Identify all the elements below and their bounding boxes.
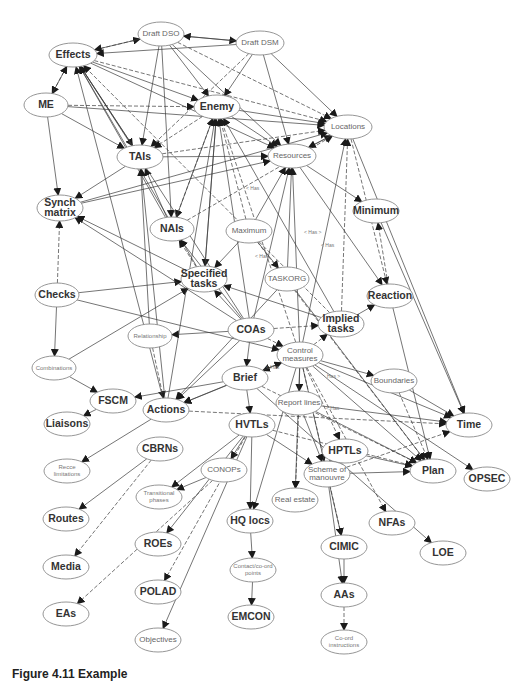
edge-contact-points-to-emcon xyxy=(252,582,253,605)
edge-label: < Has xyxy=(326,405,340,411)
node-label: Report lines xyxy=(278,398,321,407)
edge-tais-to-resources xyxy=(163,156,268,157)
node-label: measures xyxy=(282,354,317,363)
node-label: Resources xyxy=(273,151,311,160)
node-label: HVTLs xyxy=(235,418,268,430)
node-locations: Locations xyxy=(324,115,372,139)
node-minimum: Minimum xyxy=(353,199,399,223)
edge-coas-to-implied-tasks xyxy=(274,326,318,329)
node-loe: LOE xyxy=(420,541,466,565)
node-hvtls: HVTLs xyxy=(229,413,275,437)
edge-control-measures-to-implied-tasks xyxy=(314,334,327,344)
edge-enemy-to-tais xyxy=(154,116,202,147)
node-scheme-of-manouvre: Scheme ofmanouvre xyxy=(304,461,350,487)
edge-implied-tasks-to-specified-tasks xyxy=(224,286,321,318)
node-synch-matrix: Synchmatrix xyxy=(37,195,83,221)
edge-hq-locs-to-contact-points xyxy=(251,533,253,558)
node-label: Routes xyxy=(48,512,84,524)
edge-relationship-to-actions xyxy=(153,348,164,398)
nodes-layer: Draft DSODraft DSMEffectsMEEnemyLocation… xyxy=(24,22,510,654)
edge-report-lines-to-time xyxy=(321,406,446,422)
edge-taskorg-to-resources xyxy=(288,168,292,267)
edge-scheme-of-manouvre-to-plan xyxy=(350,472,410,474)
edge-maximum-to-enemy xyxy=(220,119,246,219)
node-label: OPSEC xyxy=(469,472,506,484)
edge-checks-to-synch-matrix xyxy=(57,221,59,283)
node-draft-dsm: Draft DSM xyxy=(236,31,284,55)
node-boundaries: Boundaries xyxy=(371,369,417,393)
node-label: Boundaries xyxy=(374,376,414,385)
node-label: EMCON xyxy=(231,610,270,622)
edge-brief-to-fscm xyxy=(135,382,223,397)
node-label: phases xyxy=(149,497,168,503)
node-label: ME xyxy=(38,98,54,110)
node-label: Checks xyxy=(38,288,76,300)
node-brief: Brief xyxy=(222,366,268,390)
edge-brief-to-actions xyxy=(184,385,227,402)
node-label: Transitional xyxy=(144,490,175,496)
node-polad: POLAD xyxy=(135,580,181,604)
node-aas: AAs xyxy=(321,583,367,607)
edge-resources-to-minimum xyxy=(307,166,362,202)
edge-label: < Has xyxy=(321,242,335,248)
node-label: CIMIC xyxy=(329,540,359,552)
edge-tais-to-synch-matrix xyxy=(75,166,125,198)
node-liaisons: Liaisons xyxy=(44,412,90,436)
node-label: COAs xyxy=(236,323,265,335)
edge-cbrns-to-routes xyxy=(79,459,147,509)
node-nfas: NFAs xyxy=(369,511,415,535)
node-label: Draft DSO xyxy=(143,29,180,38)
node-enemy: Enemy xyxy=(194,95,240,119)
edge-coas-to-control-measures xyxy=(267,338,283,346)
node-label: Minimum xyxy=(353,204,399,216)
node-checks: Checks xyxy=(35,283,79,307)
node-label: Maximum xyxy=(232,226,267,235)
edge-maximum-to-specified-tasks xyxy=(215,242,239,268)
node-label: limitations xyxy=(54,471,81,477)
edge-boundaries-to-plan xyxy=(399,393,428,460)
node-resources: Resources xyxy=(268,144,316,168)
node-label: Locations xyxy=(331,122,365,131)
node-label: tasks xyxy=(191,277,218,289)
figure-caption: Figure 4.11 Example xyxy=(12,667,127,681)
node-label: Plan xyxy=(422,464,444,476)
node-emcon: EMCON xyxy=(228,605,274,629)
node-label: FSCM xyxy=(98,394,128,406)
edge-checks-to-specified-tasks xyxy=(79,282,182,293)
node-label: Media xyxy=(51,560,81,572)
node-label: tasks xyxy=(328,322,355,334)
edge-draft-dsm-to-enemy xyxy=(225,54,253,95)
node-label: Real estate xyxy=(275,495,316,504)
node-plan: Plan xyxy=(410,459,456,483)
node-label: AAs xyxy=(333,588,354,600)
edge-combinations-to-fscm xyxy=(69,377,97,393)
node-label: ROEs xyxy=(144,537,173,549)
node-reaction: Reaction xyxy=(367,284,413,308)
node-report-lines: Report lines xyxy=(276,391,322,415)
edge-effects-to-resources xyxy=(91,63,275,148)
node-label: POLAD xyxy=(140,585,177,597)
node-label: Objectives xyxy=(139,635,176,644)
node-label: CONOPs xyxy=(207,465,240,474)
edge-brief-to-hvtls xyxy=(247,390,250,413)
node-nais: NAIs xyxy=(150,217,194,241)
edge-report-lines-to-real-estate xyxy=(296,415,299,488)
edge-scheme-of-manouvre-to-cimic xyxy=(330,487,341,535)
node-label: Liaisons xyxy=(46,417,89,429)
node-label: Time xyxy=(457,418,481,430)
node-label: manouvre xyxy=(309,473,345,482)
node-conops: CONOPs xyxy=(201,458,247,482)
node-roes: ROEs xyxy=(135,532,181,556)
node-cimic: CIMIC xyxy=(321,535,367,559)
node-coord-instructions: Co-ordinstructions xyxy=(321,630,367,654)
edge-hvtls-to-hq-locs xyxy=(250,437,252,509)
node-hptls: HPTLs xyxy=(322,439,368,463)
edge-actions-to-enemy xyxy=(168,119,215,398)
node-effects: Effects xyxy=(49,43,97,67)
edge-reaction-to-minimum xyxy=(378,223,388,284)
edge-label: < Has xyxy=(255,253,269,259)
node-relationship: Relationship xyxy=(128,324,172,348)
node-label: points xyxy=(245,570,261,576)
node-media: Media xyxy=(43,555,89,579)
